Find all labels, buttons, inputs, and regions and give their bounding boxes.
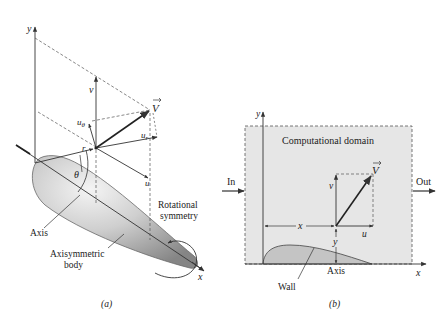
y-axis-label-b: y <box>255 109 261 119</box>
computational-domain <box>245 126 412 264</box>
y-dim-label: y <box>332 236 338 247</box>
panel-a: y x v V ur uθ r u θ Axis Axisymmetric bo… <box>16 23 204 310</box>
axis-label-b: Axis <box>327 266 345 276</box>
rotational-label-line2: symmetry <box>160 211 198 221</box>
u-label-a: u <box>145 178 150 188</box>
axisymmetric-flow-figure: y x v V ur uθ r u θ Axis Axisymmetric bo… <box>0 0 447 328</box>
domain-label: Computational domain <box>282 135 374 146</box>
dashed-line <box>35 38 150 110</box>
y-axis-label-a: y <box>26 23 32 34</box>
body-label-line1: Axisymmetric <box>50 249 104 259</box>
r-label: r <box>82 143 86 153</box>
utheta-component <box>89 124 96 148</box>
theta-label: θ <box>74 169 79 180</box>
dashed-line <box>153 113 157 137</box>
utheta-label: uθ <box>77 117 86 129</box>
outlet-label: Out <box>416 176 431 187</box>
ur-label: ur <box>141 130 149 142</box>
u-label-b: u <box>362 229 367 239</box>
caption-a: (a) <box>101 299 112 310</box>
axis-lead-in <box>16 145 30 154</box>
flow-point-a <box>94 146 97 149</box>
x-dim-label: x <box>297 220 303 231</box>
u-component-a <box>96 148 148 178</box>
panel-b: y x Computational domain In Out v V u x … <box>222 109 435 310</box>
rotational-label-line1: Rotational <box>158 200 198 210</box>
x-axis-label-a: x <box>197 271 203 282</box>
caption-b: (b) <box>329 299 340 310</box>
axis-label-a: Axis <box>30 228 48 238</box>
inlet-label: In <box>227 176 235 187</box>
v-label-a: v <box>89 84 94 95</box>
wall-label: Wall <box>278 282 296 292</box>
dashed-line <box>38 112 96 147</box>
body-label-line2: body <box>64 260 83 270</box>
x-axis-label-b: x <box>415 267 421 278</box>
V-label-a: V <box>152 102 160 114</box>
